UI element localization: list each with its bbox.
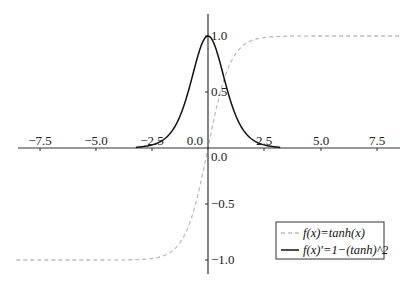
legend-label-tanh: f(x)=tanh(x)	[303, 226, 365, 240]
x-tick-label: −5.0	[84, 133, 108, 148]
y-tick-label: 0.0	[211, 149, 227, 164]
y-tick-label: −0.5	[211, 196, 235, 211]
legend-label-derivative: f(x)'=1−(tanh)^2	[303, 243, 388, 257]
x-tick-label: 7.5	[369, 133, 385, 148]
legend: f(x)=tanh(x) f(x)'=1−(tanh)^2	[276, 222, 388, 259]
x-tick-label: 5.0	[313, 133, 329, 148]
x-tick-label: −2.5	[140, 133, 164, 148]
y-tick-label: −1.0	[211, 252, 235, 267]
x-tick-label: 2.5	[256, 133, 272, 148]
x-tick-label: 0.0	[187, 133, 203, 148]
y-tick-label: 1.0	[211, 28, 227, 43]
chart: −7.5 −5.0 −2.5 0.0 2.5 5.0 7.5 1.0 0.5 0…	[0, 0, 413, 291]
x-tick-label: −7.5	[28, 133, 52, 148]
y-tick-label: 0.5	[211, 84, 227, 99]
